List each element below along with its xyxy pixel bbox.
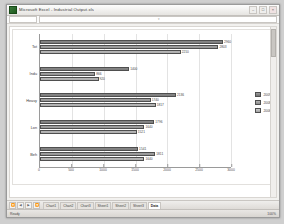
last-sheet-icon[interactable]: ⏩	[33, 202, 40, 209]
bar-value-label: 1796	[155, 120, 162, 124]
bar-group: 154118111640	[40, 140, 231, 167]
bar-row: 1811	[40, 152, 231, 156]
bar-row: 1541	[40, 147, 231, 151]
window-title: Microsoft Excel - Industrial Output.xls	[19, 7, 94, 13]
bar-row: 866	[40, 72, 231, 76]
axis-tick-label: 0	[38, 168, 40, 172]
legend-item[interactable]: 2009	[255, 92, 271, 97]
bar-row: 1521	[40, 130, 231, 134]
bar[interactable]	[40, 120, 154, 124]
sheet-tab-chart3[interactable]: Chart3	[77, 202, 93, 209]
legend-swatch	[255, 108, 261, 113]
sheet-tab-bar: ⏪ ◀ ▶ ⏩ Chart1Chart2Chart3Sheet1Sheet2Sh…	[7, 200, 279, 209]
status-text: Ready	[10, 212, 20, 216]
plot-area: 2960280322101400866920213617401817179616…	[39, 34, 231, 168]
bar-value-label: 2803	[219, 45, 226, 49]
bar[interactable]	[40, 125, 144, 129]
bar[interactable]	[40, 157, 144, 161]
sheet-tab-sheet1[interactable]: Sheet1	[95, 202, 112, 209]
bar[interactable]	[40, 103, 156, 107]
bar-row: 2210	[40, 50, 231, 54]
bar-value-label: 1400	[130, 67, 137, 71]
axis-tick-mark	[167, 164, 168, 167]
minimize-button[interactable]: –	[249, 6, 257, 14]
sheet-nav-buttons: ⏪ ◀ ▶ ⏩	[9, 202, 40, 209]
zoom-level: 100%	[267, 212, 276, 216]
category-label: Tot	[13, 34, 39, 61]
bar[interactable]	[40, 40, 223, 44]
axis-tick-label: 2500	[195, 168, 203, 172]
formula-input[interactable]: ▾	[39, 16, 277, 23]
value-axis: 050010001500200025003000	[39, 168, 231, 180]
window-controls: – □ ×	[249, 6, 277, 14]
bar[interactable]	[40, 72, 95, 76]
excel-icon	[9, 6, 17, 14]
bar-value-label: 2960	[224, 40, 231, 44]
axis-tick-label: 500	[68, 168, 74, 172]
axis-tick-mark	[135, 164, 136, 167]
bar-value-label: 1740	[152, 98, 159, 102]
sheet-tab-sheet3[interactable]: Sheet3	[130, 202, 147, 209]
bar-row: 1740	[40, 98, 231, 102]
next-sheet-icon[interactable]: ▶	[25, 202, 32, 209]
bar[interactable]	[40, 77, 99, 81]
axis-tick-mark	[199, 164, 200, 167]
bar-value-label: 1521	[138, 130, 145, 134]
bar-group: 179616401521	[40, 114, 231, 141]
axis-tick-mark	[231, 164, 232, 167]
bar-value-label: 1640	[145, 157, 152, 161]
sheet-tab-chart2[interactable]: Chart2	[60, 202, 76, 209]
axis-tick-mark	[71, 164, 72, 167]
maximize-button[interactable]: □	[259, 6, 267, 14]
formula-bar-strip: ▾	[7, 16, 279, 24]
chart-object[interactable]: TotInduHeavyLonBeh 296028032210140086692…	[12, 29, 274, 185]
axis-tick-label: 1000	[99, 168, 107, 172]
bar-value-label: 1541	[139, 147, 146, 151]
first-sheet-icon[interactable]: ⏪	[9, 202, 16, 209]
bar-row: 1817	[40, 103, 231, 107]
bar-value-label: 920	[100, 77, 105, 81]
bar-value-label: 2210	[182, 50, 189, 54]
bar-value-label: 1817	[157, 103, 164, 107]
bar-row: 2136	[40, 93, 231, 97]
category-label: Indu	[13, 61, 39, 88]
legend-swatch	[255, 100, 261, 105]
status-bar: Ready 100%	[7, 209, 279, 217]
bar-row: 2803	[40, 45, 231, 49]
gridline	[231, 34, 232, 167]
title-bar: Microsoft Excel - Industrial Output.xls …	[7, 5, 279, 16]
bar[interactable]	[40, 45, 218, 49]
axis-tick-label: 1500	[131, 168, 139, 172]
sheet-tab-data[interactable]: Data	[148, 202, 161, 209]
vertical-scrollbar[interactable]	[270, 27, 276, 197]
sheet-tab-sheet2[interactable]: Sheet2	[112, 202, 129, 209]
bar-row: 1640	[40, 125, 231, 129]
category-axis: TotInduHeavyLonBeh	[13, 34, 39, 168]
bar[interactable]	[40, 50, 181, 54]
bar[interactable]	[40, 67, 129, 71]
sheet-tab-chart1[interactable]: Chart1	[43, 202, 59, 209]
scrollbar-thumb[interactable]	[271, 29, 276, 57]
bar[interactable]	[40, 98, 151, 102]
bar[interactable]	[40, 147, 138, 151]
bar[interactable]	[40, 130, 137, 134]
bar-value-label: 2136	[177, 93, 184, 97]
axis-tick-label: 2000	[163, 168, 171, 172]
bar-row: 1796	[40, 120, 231, 124]
axis-tick-label: 3000	[227, 168, 235, 172]
bar-row: 1640	[40, 157, 231, 161]
close-button[interactable]: ×	[269, 6, 277, 14]
axis-tick-mark	[103, 164, 104, 167]
worksheet-area: TotInduHeavyLonBeh 296028032210140086692…	[9, 26, 277, 198]
bar[interactable]	[40, 93, 176, 97]
legend-swatch	[255, 92, 261, 97]
prev-sheet-icon[interactable]: ◀	[17, 202, 24, 209]
bar-row: 2960	[40, 40, 231, 44]
chart-legend[interactable]: 200920082006	[255, 92, 271, 113]
legend-item[interactable]: 2008	[255, 100, 271, 105]
bar[interactable]	[40, 152, 155, 156]
category-label: Heavy	[13, 88, 39, 115]
name-box[interactable]	[9, 16, 37, 23]
legend-item[interactable]: 2006	[255, 108, 271, 113]
bar-groups: 2960280322101400866920213617401817179616…	[40, 34, 231, 167]
